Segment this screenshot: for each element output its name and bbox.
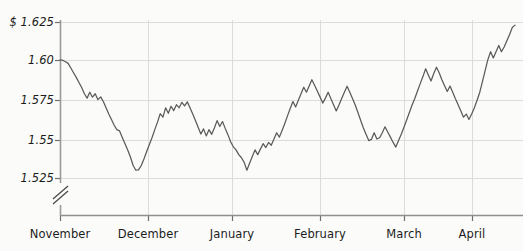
x-axis-tick-label: April: [459, 228, 486, 241]
x-axis-tick-label: March: [386, 228, 422, 241]
line-chart: $ 1.6251.601.5751.551.525 NovemberDecemb…: [0, 0, 523, 251]
x-axis-tick-label: February: [294, 228, 346, 241]
x-axis-labels: NovemberDecemberJanuaryFebruaryMarchApri…: [0, 0, 523, 251]
x-axis-tick-label: January: [210, 228, 254, 241]
x-axis-tick-label: November: [30, 228, 91, 241]
x-axis-tick-label: December: [118, 228, 178, 241]
